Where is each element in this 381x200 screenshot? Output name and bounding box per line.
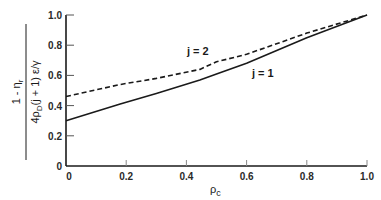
x-tick-label: 1.0 <box>360 171 374 182</box>
ylabel-denominator-rest: (j + 1) ε/γ <box>29 60 41 105</box>
x-tick-label: 0.8 <box>300 171 314 182</box>
y-tick-label: 0.4 <box>48 101 62 112</box>
curve-label-j2: j = 2 <box>186 45 209 57</box>
y-axis-title: 1 - ηr 4ρD(j + 1) ε/γ <box>10 24 44 160</box>
x-axis-title: ρc <box>210 183 221 198</box>
ylabel-numerator-sub: r <box>16 79 25 82</box>
svg-text:ρc: ρc <box>210 183 221 198</box>
y-tick-label: 0.8 <box>48 40 62 51</box>
svg-text:1 - ηr: 1 - ηr <box>10 79 25 104</box>
series-j2 <box>66 15 367 97</box>
series-j1 <box>66 15 367 121</box>
y-tick-label: 0.2 <box>48 131 62 142</box>
curve-label-j1: j = 1 <box>251 67 274 79</box>
y-tick-label: 1.0 <box>48 10 62 21</box>
ylabel-numerator: 1 - η <box>10 82 22 104</box>
x-tick-label: 0.4 <box>179 171 193 182</box>
x-ticks: 00.20.40.60.81.0 <box>66 160 374 182</box>
x-tick-label: 0 <box>66 171 72 182</box>
data-series <box>66 15 367 121</box>
svg-text:4ρD(j + 1) ε/γ: 4ρD(j + 1) ε/γ <box>29 60 44 124</box>
x-tick-label: 0.2 <box>119 171 133 182</box>
ylabel-denominator-prefix: 4ρ <box>29 111 41 123</box>
x-axis-subscript: c <box>216 188 221 198</box>
axes <box>66 15 367 166</box>
chart: 00.20.40.60.81.0 00.20.40.60.81.0 j = 2 … <box>0 0 381 200</box>
y-tick-label: 0.6 <box>48 70 62 81</box>
y-ticks: 00.20.40.60.81.0 <box>48 10 74 172</box>
x-tick-label: 0.6 <box>240 171 254 182</box>
y-tick-label: 0 <box>56 161 62 172</box>
